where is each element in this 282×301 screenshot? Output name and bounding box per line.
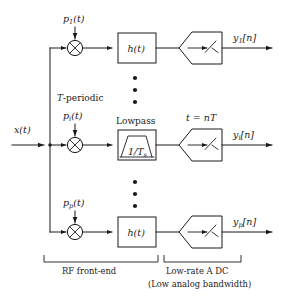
input-label: x(t) <box>14 124 31 135</box>
bracket-low-rate-adc-label: Low-rate A DC <box>166 266 228 276</box>
bracket-rf-front-end: RF front-end <box>44 255 158 276</box>
branch-1-sampler-block <box>179 32 222 64</box>
branch-i-filter-block: 1/Ts <box>118 130 156 160</box>
ellipsis-upper-dot-1 <box>133 76 137 80</box>
ellipsis-lower-dot-3 <box>133 204 137 208</box>
branch-1-filter-block: h(t) <box>118 33 156 63</box>
ellipsis-lower-dot-2 <box>133 192 137 196</box>
branch-p-sampler-block <box>179 216 222 248</box>
ellipsis-lower <box>133 180 137 208</box>
distribution-bus <box>48 48 51 232</box>
input-signal-group: x(t) <box>12 124 44 145</box>
bracket-rf-front-end-label: RF front-end <box>62 266 117 276</box>
branch-p-mixer-label: pp(t) <box>63 197 85 210</box>
branch-p-mixer <box>67 224 82 239</box>
branch-i-mixer-label: pi(t) <box>63 110 83 123</box>
periodic-note-label: T-periodic <box>57 93 103 103</box>
bracket-low-rate-adc-shape <box>164 255 241 262</box>
lowpass-note-label: Lowpass <box>116 116 156 126</box>
sample-instant-label: t = nT <box>186 112 217 123</box>
branch-1-mixer-label: p1(t) <box>63 13 85 26</box>
ellipsis-lower-dot-1 <box>133 180 137 184</box>
branch-1-filter-label: h(t) <box>128 43 146 54</box>
branch-i-group: T-periodic pi(t) Lowpass 1/Ts <box>50 93 272 161</box>
branch-p-output-label: yp[n] <box>232 216 256 229</box>
branch-p-filter-block: h(t) <box>118 217 156 247</box>
block-diagram-figure: x(t) p1(t) <box>0 0 282 301</box>
branch-1-mixer <box>67 40 82 55</box>
ellipsis-upper-dot-2 <box>133 88 137 92</box>
branch-1-output-label: y1[n] <box>232 32 256 45</box>
bracket-rf-front-end-shape <box>44 255 158 262</box>
ellipsis-upper <box>133 76 137 104</box>
branch-p-filter-label: h(t) <box>128 227 146 238</box>
branch-1-group: p1(t) h(t) <box>50 13 272 64</box>
branch-i-output-label: yi[n] <box>232 129 254 142</box>
branch-i-mixer <box>67 137 82 152</box>
diagram-canvas: x(t) p1(t) <box>0 0 282 301</box>
ellipsis-upper-dot-3 <box>133 100 137 104</box>
bracket-low-rate-adc-sublabel: (Low analog bandwidth) <box>148 279 251 289</box>
branch-p-group: pp(t) h(t) yp[n] <box>50 197 272 248</box>
branch-i-sampler-block <box>179 129 222 161</box>
bracket-low-rate-adc: Low-rate A DC (Low analog bandwidth) <box>148 255 251 289</box>
